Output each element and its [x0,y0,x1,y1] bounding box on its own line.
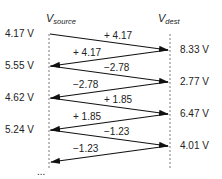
source-voltage: 5.24 V [5,124,34,135]
diagram-canvas: Vsource Vdest 4.17 V 5.55 V 4.62 V 5.24 … [0,0,222,179]
source-voltage: 4.62 V [5,92,34,103]
backward-arrow-4 [51,146,168,162]
backward-label: + 1.85 [73,111,102,122]
dest-voltage: 8.33 V [180,44,209,55]
source-voltage: 4.17 V [5,28,34,39]
forward-label: −1.23 [104,126,130,137]
backward-label: −1.23 [73,143,99,154]
dest-voltage: 4.01 V [180,140,209,151]
forward-label: + 4.17 [104,30,133,41]
backward-label: + 4.17 [73,47,102,58]
continuation-ellipsis: ... [37,166,45,177]
dest-voltage: 2.77 V [180,76,209,87]
forward-label: −2.78 [104,62,130,73]
forward-label: + 1.85 [104,94,133,105]
source-voltage: 5.55 V [5,60,34,71]
reflection-diagram: Vsource Vdest 4.17 V 5.55 V 4.62 V 5.24 … [0,0,222,179]
source-header: Vsource [46,12,76,26]
dest-header: Vdest [158,12,180,26]
dest-voltage: 6.47 V [180,108,209,119]
backward-label: −2.78 [73,79,99,90]
